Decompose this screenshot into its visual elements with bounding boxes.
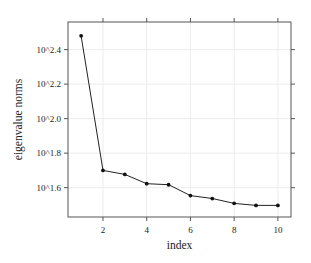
y-tick-label: 10^2.0 [37, 114, 62, 124]
grid-lines [68, 22, 291, 217]
data-point [189, 194, 193, 198]
data-series [79, 34, 280, 207]
series-line [81, 36, 278, 206]
eigenvalue-line-chart: 246810 10^1.610^1.810^2.010^2.210^2.4 in… [0, 0, 311, 263]
data-point [232, 201, 236, 205]
data-point [167, 183, 171, 187]
data-point [145, 182, 149, 186]
x-tick-label: 8 [232, 225, 237, 235]
data-point [123, 172, 127, 176]
x-axis: 246810 [101, 18, 283, 235]
y-tick-label: 10^1.6 [37, 183, 62, 193]
x-axis-label: index [167, 239, 193, 251]
x-tick-label: 6 [188, 225, 193, 235]
data-point [101, 169, 105, 173]
y-tick-label: 10^1.8 [37, 148, 62, 158]
y-axis-label: eigenvalue norms [12, 78, 25, 160]
y-tick-label: 10^2.2 [37, 79, 61, 89]
x-tick-label: 4 [144, 225, 149, 235]
data-point [79, 34, 83, 38]
x-tick-label: 2 [101, 225, 106, 235]
data-point [276, 204, 280, 208]
data-point [210, 197, 214, 201]
x-tick-label: 10 [273, 225, 283, 235]
y-tick-label: 10^2.4 [37, 45, 62, 55]
data-point [254, 204, 258, 208]
